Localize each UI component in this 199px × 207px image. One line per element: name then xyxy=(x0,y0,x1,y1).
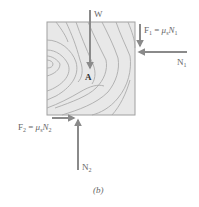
figure-caption: (b) xyxy=(93,186,104,195)
label-f1: F1 = μsN1 xyxy=(144,26,177,36)
label-point-a: A xyxy=(85,73,92,82)
f2-n-subscript: 2 xyxy=(48,127,51,133)
label-f2: F2 = μsN2 xyxy=(18,123,51,133)
label-n1: N1 xyxy=(177,58,187,68)
n1-subscript: 1 xyxy=(184,62,187,68)
f2-equals: = xyxy=(26,122,36,132)
n2-subscript: 2 xyxy=(89,167,92,173)
f1-n-subscript: 1 xyxy=(174,30,177,36)
label-w: W xyxy=(94,10,103,19)
f1-equals: = xyxy=(152,25,162,35)
label-n2: N2 xyxy=(82,163,92,173)
free-body-diagram: W A F1 = μsN1 N1 F2 = μsN2 N2 (b) xyxy=(0,0,199,207)
